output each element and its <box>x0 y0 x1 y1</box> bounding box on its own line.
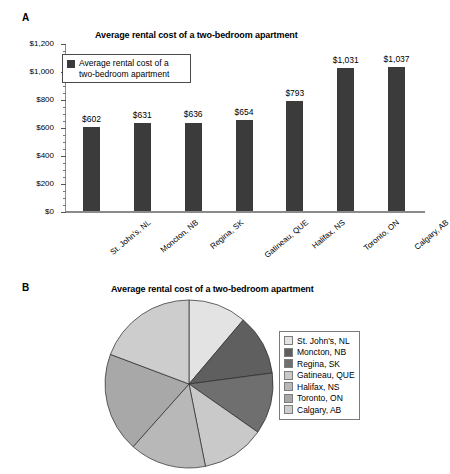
pie-legend-swatch-icon <box>284 348 293 357</box>
y-tick-label: $400 <box>8 151 54 160</box>
x-category-label: Halifax, NS <box>310 218 346 251</box>
y-tick-label: $800 <box>8 95 54 104</box>
bar <box>134 123 151 211</box>
x-category-label: Calgary, AB <box>412 218 450 252</box>
pie-legend-item: Toronto, ON <box>284 393 355 405</box>
panel-b-letter: B <box>22 282 29 293</box>
pie-legend-swatch-icon <box>284 394 293 403</box>
bar <box>185 123 202 212</box>
bar-chart-title: Average rental cost of a two-bedroom apa… <box>95 30 298 40</box>
pie-legend-item: Gatineau, QUE <box>284 370 355 382</box>
bar <box>388 67 405 211</box>
pie-chart-legend: St. John's, NLMoncton, NBRegina, SKGatin… <box>279 331 360 420</box>
y-tick-label: $0 <box>8 207 54 216</box>
y-tick-label: $600 <box>8 123 54 132</box>
pie-legend-swatch-icon <box>284 405 293 414</box>
pie-legend-swatch-icon <box>284 382 293 391</box>
bar-value-label: $654 <box>219 107 269 117</box>
legend-label: Average rental cost of a two-bedroom apa… <box>79 58 185 79</box>
pie-legend-label: Regina, SK <box>297 359 340 369</box>
pie-legend-item: Regina, SK <box>284 358 355 370</box>
bar-value-label: $793 <box>270 88 320 98</box>
bar-chart: $0$200$400$600$800$1,000$1,200 $602$631$… <box>0 40 437 265</box>
pie-chart: St. John's, NLMoncton, NBRegina, SKGatin… <box>0 296 437 474</box>
pie-chart-title: Average rental cost of a two-bedroom apa… <box>111 284 314 294</box>
pie-legend-item: Moncton, NB <box>284 347 355 359</box>
x-axis-line <box>65 211 425 213</box>
pie-legend-label: Toronto, ON <box>297 393 343 403</box>
pie-legend-item: St. John's, NL <box>284 335 355 347</box>
legend-swatch-icon <box>67 60 75 68</box>
x-category-label: Toronto, ON <box>362 218 401 253</box>
panel-a-letter: A <box>22 12 29 23</box>
pie-legend-label: Gatineau, QUE <box>297 370 355 380</box>
pie-legend-swatch-icon <box>284 359 293 368</box>
pie-graphic <box>103 298 275 470</box>
y-tick-major <box>61 212 66 213</box>
y-tick-label: $1,200 <box>8 39 54 48</box>
pie-legend-label: St. John's, NL <box>297 336 350 346</box>
bar <box>286 101 303 211</box>
y-tick-label: $1,000 <box>8 67 54 76</box>
pie-legend-label: Halifax, NS <box>297 382 340 392</box>
bar <box>236 120 253 211</box>
pie-legend-item: Calgary, AB <box>284 404 355 416</box>
x-category-label: Regina, SK <box>209 218 246 251</box>
pie-legend-swatch-icon <box>284 336 293 345</box>
bar-value-label: $1,037 <box>372 54 422 64</box>
pie-legend-label: Calgary, AB <box>297 405 341 415</box>
bar-value-label: $636 <box>168 109 218 119</box>
pie-legend-label: Moncton, NB <box>297 347 346 357</box>
x-category-label: Moncton, NB <box>159 218 200 255</box>
bar-chart-legend: Average rental cost of a two-bedroom apa… <box>62 54 191 83</box>
bar-value-label: $631 <box>117 110 167 120</box>
bar-value-label: $1,031 <box>321 55 371 65</box>
x-category-label: St. John's, NL <box>109 218 153 257</box>
bar <box>337 68 354 211</box>
bar <box>83 127 100 211</box>
bar-value-label: $602 <box>66 114 116 124</box>
y-tick-label: $200 <box>8 179 54 188</box>
pie-legend-swatch-icon <box>284 371 293 380</box>
pie-legend-item: Halifax, NS <box>284 381 355 393</box>
x-category-label: Gatineau, QUE <box>263 218 310 260</box>
